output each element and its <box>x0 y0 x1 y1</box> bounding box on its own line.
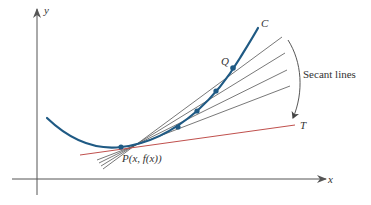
secant-point-1 <box>175 124 180 129</box>
tangent-label: T <box>300 120 306 131</box>
point-q-label: Q <box>221 56 229 67</box>
secant-lines-label: Secant lines <box>303 69 356 80</box>
point-p-label: P(x, f(x)) <box>122 153 162 164</box>
point-q-marker <box>230 65 236 71</box>
secant-point-2 <box>194 108 199 113</box>
x-axis-label: x <box>328 174 333 185</box>
secant-line-1 <box>103 37 282 169</box>
curve-points <box>118 65 235 149</box>
secant-line-3 <box>99 70 287 163</box>
secant-to-tangent-arrow <box>288 40 300 118</box>
diagram-canvas <box>0 0 371 205</box>
y-axis-label: y <box>44 5 49 16</box>
curve-c <box>47 28 258 148</box>
secant-lines <box>97 37 290 169</box>
secant-tangent-diagram: y x C Q Secant lines T P(x, f(x)) <box>0 0 371 205</box>
curve-label: C <box>261 18 268 29</box>
secant-line-2 <box>101 53 285 166</box>
point-p-marker <box>118 144 123 149</box>
tangent-line <box>80 125 295 155</box>
secant-point-3 <box>213 88 218 93</box>
